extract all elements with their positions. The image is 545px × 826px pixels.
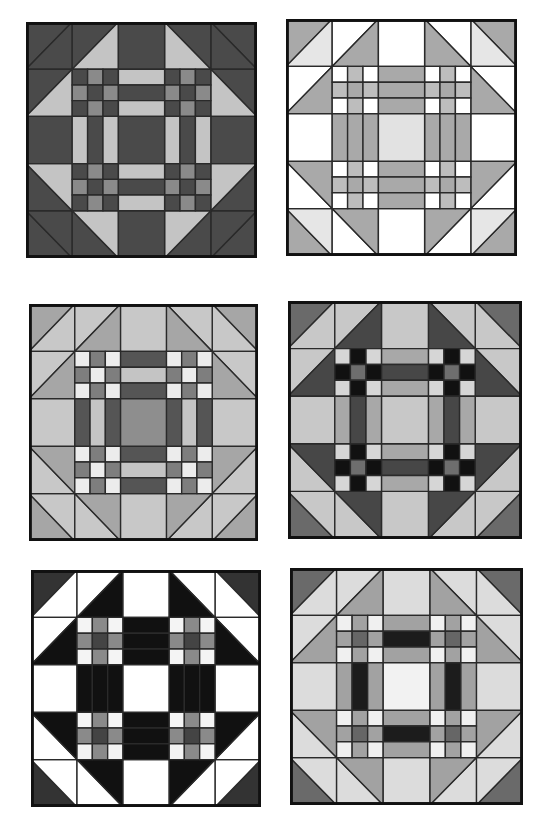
quilt-block-drawing bbox=[29, 304, 258, 541]
quilt-block-4 bbox=[288, 301, 522, 539]
quilt-block-5 bbox=[31, 570, 261, 807]
quilt-block-drawing bbox=[286, 19, 517, 256]
quilt-block-3 bbox=[29, 304, 258, 541]
quilt-block-drawing bbox=[290, 568, 523, 805]
quilt-block-1 bbox=[26, 22, 257, 258]
quilt-block-drawing bbox=[31, 570, 261, 807]
quilt-block-drawing bbox=[26, 22, 257, 258]
quilt-block-drawing bbox=[288, 301, 522, 539]
quilt-block-6 bbox=[290, 568, 523, 805]
quilt-block-2 bbox=[286, 19, 517, 256]
